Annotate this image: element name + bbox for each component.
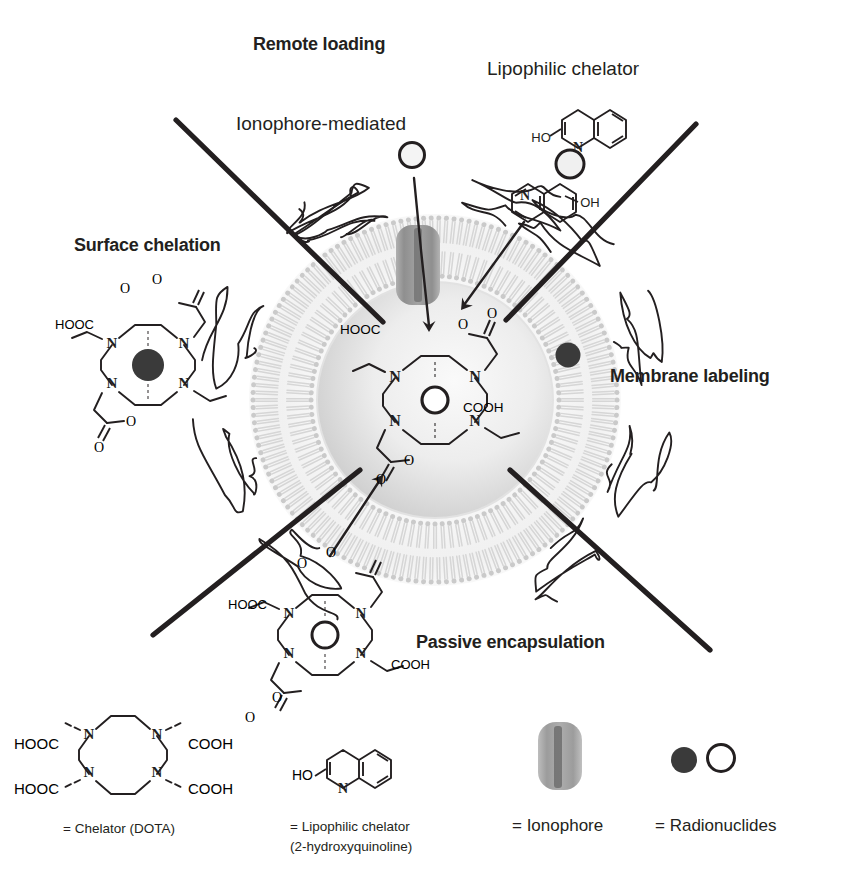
svg-text:N: N <box>469 368 481 385</box>
legend-caption-lipophilic-chelator-line2: (2-hydroxyquinoline) <box>290 838 412 856</box>
label-lipophilic-chelator: Lipophilic chelator <box>487 58 639 80</box>
legend-atom-cooh-br: COOH <box>188 780 233 797</box>
dota-surface-chelation: N N N N <box>72 290 226 441</box>
legend-atom-hooc-bl: HOOC <box>14 780 59 797</box>
label-surface-chelation: Surface chelation <box>74 235 221 256</box>
atom-label-o-passive-4: O <box>245 710 255 726</box>
legend-caption-lipophilic-chelator: = Lipophilic chelator <box>290 818 410 836</box>
atom-label-o-center-1: O <box>458 317 468 333</box>
svg-text:N: N <box>356 645 367 661</box>
atom-label-o-surface-4: O <box>94 440 104 456</box>
label-remote-loading: Remote loading <box>253 34 385 55</box>
atom-label-o-center-4: O <box>376 472 386 488</box>
legend-atom-cooh-tr: COOH <box>188 735 233 752</box>
svg-text:N: N <box>179 335 190 351</box>
membrane-radionuclide-dot <box>556 343 581 368</box>
svg-text:N: N <box>284 645 295 661</box>
svg-text:N: N <box>520 188 530 203</box>
label-passive-encapsulation: Passive encapsulation <box>416 632 605 653</box>
legend-glyph-quinoline: N <box>315 750 391 796</box>
atom-label-o-center-3: O <box>404 453 414 469</box>
atom-label-o-passive-2: O <box>326 545 336 561</box>
diagram-artwork: N N N N <box>0 0 857 888</box>
chelated-radionuclide-open <box>556 150 584 178</box>
legend-glyph-dota: N N N N <box>65 716 181 794</box>
svg-text:N: N <box>107 335 118 351</box>
legend-glyph-ionophore <box>538 722 582 790</box>
label-ionophore-mediated: Ionophore-mediated <box>236 113 406 135</box>
svg-text:N: N <box>389 368 401 385</box>
atom-label-o-surface-2: O <box>152 272 162 288</box>
svg-text:HO: HO <box>531 130 551 145</box>
svg-text:N: N <box>284 605 295 621</box>
svg-text:N: N <box>107 375 118 391</box>
atom-label-hooc-surface: HOOC <box>55 317 94 332</box>
atom-label-hooc-passive: HOOC <box>228 597 267 612</box>
legend-glyph-radionuclides <box>671 745 735 774</box>
legend-atom-hooc-tl: HOOC <box>14 735 59 752</box>
svg-text:OH: OH <box>580 195 600 210</box>
figure-canvas: N N N N <box>0 0 857 888</box>
atom-label-cooh-passive: COOH <box>391 657 430 672</box>
line-lipophilic-upper-right <box>506 124 696 320</box>
atom-label-o-surface-3: O <box>126 414 136 430</box>
svg-text:N: N <box>152 764 163 780</box>
legend-caption-radionuclides: = Radionuclides <box>655 815 776 838</box>
atom-label-o-surface-1: O <box>120 281 130 297</box>
svg-text:N: N <box>389 412 401 429</box>
ionophore-in-membrane <box>396 225 440 305</box>
atom-label-o-passive-3: O <box>272 690 282 706</box>
atom-label-cooh-center: COOH <box>463 400 504 415</box>
atom-label-o-passive-1: O <box>297 556 307 572</box>
line-lower-right <box>510 470 710 650</box>
svg-text:N: N <box>356 605 367 621</box>
label-membrane-labeling: Membrane labeling <box>610 366 770 387</box>
dota-passive-encapsulation: N N N N <box>249 560 403 711</box>
peg-chain <box>193 419 256 512</box>
free-radionuclide-open <box>400 143 425 168</box>
svg-text:N: N <box>338 781 348 796</box>
svg-text:N: N <box>179 375 190 391</box>
legend-atom-ho: HO <box>292 767 313 783</box>
surface-radionuclide-filled <box>132 349 164 381</box>
svg-text:N: N <box>84 726 95 742</box>
svg-text:N: N <box>152 726 163 742</box>
lipophilic-chelator-complex: N HO N OH <box>512 110 626 222</box>
atom-label-hooc-center: HOOC <box>340 322 381 337</box>
atom-label-o-center-2: O <box>487 306 497 322</box>
legend-caption-chelator: = Chelator (DOTA) <box>63 820 175 838</box>
quinoline-upper: N HO <box>531 110 626 155</box>
legend-caption-ionophore: = Ionophore <box>512 815 603 838</box>
svg-text:N: N <box>84 764 95 780</box>
